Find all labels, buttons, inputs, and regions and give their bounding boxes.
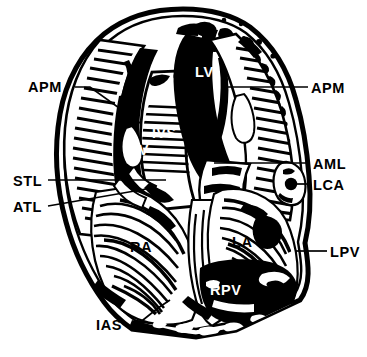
label-stl: STL — [13, 174, 42, 189]
label-ivs: IVS — [152, 126, 176, 140]
label-apm-left: APM — [28, 80, 62, 95]
label-ra: RA — [130, 240, 152, 255]
label-lca: LCA — [313, 178, 345, 193]
anatomy-illustration — [0, 0, 367, 357]
label-ias: IAS — [96, 318, 122, 333]
heart-cross-section-figure: APM STL ATL IAS APM AML LCA LPV LV IVS R… — [0, 0, 367, 357]
label-apm-right: APM — [311, 81, 345, 96]
label-la: LA — [232, 235, 253, 250]
label-atl: ATL — [13, 200, 42, 215]
label-rv: RV — [128, 143, 149, 158]
label-lv: LV — [195, 65, 214, 80]
label-aml: AML — [313, 157, 346, 172]
label-rpv: RPV — [210, 283, 242, 298]
label-lpv: LPV — [330, 245, 360, 260]
